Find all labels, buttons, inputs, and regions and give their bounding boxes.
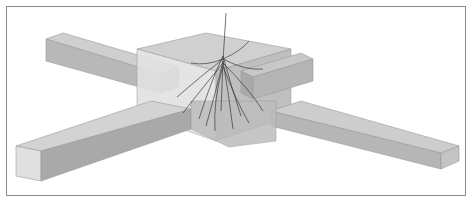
render-frame [6,6,466,196]
3d-scene [7,7,465,195]
central-lower-cube [191,101,276,147]
arm-front-right [271,101,459,169]
arm-front-left [16,101,191,181]
